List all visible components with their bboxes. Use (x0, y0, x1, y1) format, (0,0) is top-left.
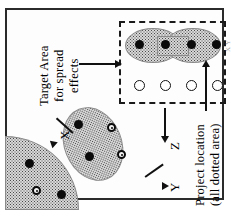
figure-canvas: Target Area for spread effects Project l… (0, 0, 231, 224)
target-area-label-line1: Target Area (37, 46, 52, 106)
filled-marker (57, 190, 66, 199)
filled-marker (85, 152, 94, 161)
target-area-label-line2: for spread (52, 46, 67, 106)
ring-marker (107, 123, 116, 132)
filled-marker (25, 159, 34, 168)
open-circle-marker (134, 80, 145, 91)
ring-marker (32, 186, 41, 195)
z-arrow-line (164, 108, 166, 138)
figure-frame: Target Area for spread effects Project l… (5, 8, 224, 200)
open-circle-marker (160, 80, 171, 91)
project-location-label-line2: (all dotted area) (208, 123, 223, 206)
target-area-arrow-line (79, 63, 117, 65)
filled-marker (135, 40, 144, 49)
margin-note: X Y (224, 40, 231, 52)
project-location-label: Project location (all dotted area) (193, 123, 223, 206)
target-area-label: Target Area for spread effects (37, 46, 82, 106)
y-label: Y (167, 182, 183, 192)
x-label: X (57, 130, 73, 140)
filled-marker (187, 40, 196, 49)
filled-marker (212, 40, 221, 49)
z-label: Z (167, 142, 183, 150)
ring-marker (117, 150, 126, 159)
open-circle-marker (212, 80, 223, 91)
y-arrow-line (145, 164, 164, 178)
target-area-label-line3: effects (67, 46, 82, 106)
target-area-arrow-head (115, 60, 122, 68)
project-location-label-line1: Project location (193, 123, 208, 206)
filled-marker (74, 120, 83, 129)
filled-marker (161, 40, 170, 49)
project-location-arrow-line (205, 65, 207, 111)
open-circle-marker (186, 80, 197, 91)
project-location-arrow-head (202, 60, 210, 67)
